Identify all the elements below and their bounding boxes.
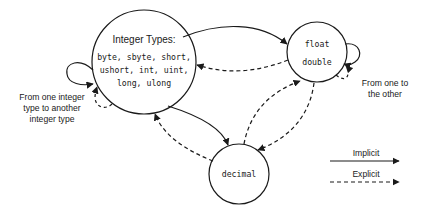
integer-self-annotation-line-1: From one integer	[19, 92, 85, 102]
integer-self-annotation-line-2: type to another	[23, 103, 80, 113]
integer-self-annotation-line-3: integer type	[30, 114, 75, 124]
integer-self-annotation: From one integer type to another integer…	[19, 92, 85, 124]
float-self-annotation: From one to the other	[362, 78, 409, 99]
integer-types-line-3: long, ulong	[117, 78, 171, 88]
conversion-diagram: Integer Types: byte, sbyte, short, ushor…	[0, 0, 422, 215]
edge-decimal-to-float-explicit	[244, 81, 300, 144]
float-self-annotation-line-2: the other	[368, 89, 402, 99]
edge-integer-self-implicit	[67, 63, 93, 85]
float-self-annotation-line-1: From one to	[362, 78, 409, 88]
integer-types-line-1: byte, sbyte, short,	[97, 52, 191, 62]
edge-integer-to-float-implicit	[183, 27, 287, 44]
integer-types-heading: Integer Types:	[112, 34, 175, 45]
double-label: double	[302, 57, 332, 67]
edge-integer-to-decimal-implicit	[168, 106, 228, 145]
legend: Implicit Explicit	[330, 148, 399, 182]
decimal-label: decimal	[222, 169, 257, 179]
legend-implicit-label: Implicit	[353, 148, 380, 158]
integer-types-node: Integer Types: byte, sbyte, short, ushor…	[92, 10, 196, 114]
edge-float-to-decimal-explicit	[258, 83, 314, 150]
legend-explicit-label: Explicit	[352, 169, 380, 179]
float-double-node: float double	[287, 22, 347, 82]
edge-float-to-integer-explicit	[197, 60, 288, 71]
edge-integer-self-explicit	[95, 87, 112, 107]
integer-types-line-2: ushort, int, uint,	[100, 65, 189, 75]
decimal-node: decimal	[209, 144, 269, 204]
float-label: float	[305, 39, 330, 49]
